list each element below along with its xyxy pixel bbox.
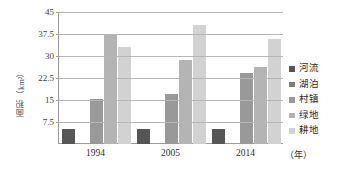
legend-item: 耕地 (289, 123, 344, 139)
x-axis-tick-label: 2014 (236, 148, 255, 158)
plot-area (58, 12, 283, 144)
bar (137, 129, 150, 144)
gridline (59, 100, 283, 101)
y-axis-tick-label: 45 (45, 7, 54, 17)
x-axis-unit-label: （年） (285, 148, 312, 161)
bar (212, 129, 225, 144)
legend-item: 村镇 (289, 92, 344, 108)
legend-item: 河流 (289, 61, 344, 77)
x-axis-tick-label: 1994 (86, 148, 105, 158)
legend-swatch-icon (289, 82, 295, 88)
legend-swatch-icon (289, 66, 295, 72)
legend-swatch-icon (289, 97, 295, 103)
bar (104, 34, 117, 144)
legend-item: 绿地 (289, 108, 344, 124)
bar (193, 25, 206, 144)
chart-legend: 河流湖泊村镇绿地耕地 (289, 61, 344, 139)
grouped-bar-chart: 面积（km²） 7.51522.53037.545 199420052014 （… (0, 0, 344, 189)
y-axis-tick-mark (56, 100, 59, 101)
legend-swatch-icon (289, 113, 295, 119)
legend-label: 绿地 (299, 111, 319, 121)
y-axis-tick-mark (56, 12, 59, 13)
y-axis-tick-label: 37.5 (38, 29, 54, 39)
gridline (59, 56, 283, 57)
bar (62, 129, 75, 144)
bar (165, 94, 178, 144)
bar (268, 39, 281, 144)
y-axis-tick-mark (56, 34, 59, 35)
legend-label: 耕地 (299, 126, 319, 136)
x-axis-tick-label: 2005 (161, 148, 180, 158)
y-axis-tick-mark (56, 78, 59, 79)
y-axis-tick-label: 15 (45, 95, 54, 105)
gridline (59, 12, 283, 13)
legend-item: 湖泊 (289, 77, 344, 93)
y-axis-tick-mark (56, 122, 59, 123)
legend-label: 湖泊 (299, 80, 319, 90)
bar (240, 73, 253, 144)
y-axis-tick-mark (56, 56, 59, 57)
gridline (59, 78, 283, 79)
y-axis-tick-label: 22.5 (38, 73, 54, 83)
y-axis-tick-label: 30 (45, 51, 54, 61)
legend-label: 河流 (299, 64, 319, 74)
bar (118, 47, 131, 144)
y-axis-tick-labels: 7.51522.53037.545 (26, 12, 56, 144)
gridline (59, 122, 283, 123)
legend-label: 村镇 (299, 95, 319, 105)
x-axis-tick-labels: 199420052014 (58, 146, 283, 166)
bar (179, 60, 192, 144)
gridline (59, 34, 283, 35)
legend-swatch-icon (289, 128, 295, 134)
y-axis-tick-label: 7.5 (43, 117, 54, 127)
